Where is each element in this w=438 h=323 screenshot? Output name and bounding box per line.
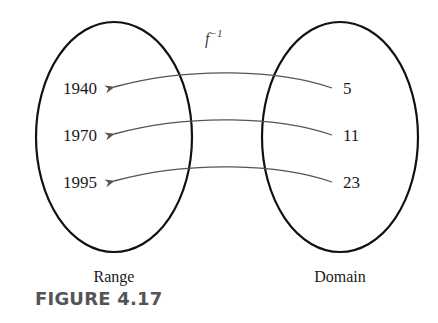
range-label: Range: [94, 268, 135, 286]
domain-element: 5: [343, 79, 352, 98]
mapping-arrow-1: [114, 73, 332, 88]
domain-ellipse: [262, 22, 418, 252]
function-label: f−1: [205, 27, 222, 48]
mapping-arrow-2: [114, 120, 332, 135]
range-ellipse: [36, 22, 192, 252]
range-element: 1940: [63, 79, 97, 98]
figure-caption: FIGURE 4.17: [35, 288, 162, 309]
range-element: 1970: [63, 126, 97, 145]
domain-label: Domain: [314, 268, 366, 285]
range-element: 1995: [63, 173, 97, 192]
domain-element: 23: [343, 173, 360, 192]
domain-element: 11: [343, 126, 359, 145]
mapping-arrow-3: [114, 167, 332, 182]
inverse-function-diagram: f−1 1940 1970 1995 5 11 23 Range Domain: [0, 0, 438, 323]
